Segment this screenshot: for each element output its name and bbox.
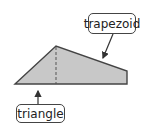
triangle-label: triangle (16, 104, 65, 123)
trapezoid-label: trapezoid (88, 13, 136, 34)
trapezoid-arrow (103, 34, 113, 58)
composite-shape (15, 46, 127, 84)
